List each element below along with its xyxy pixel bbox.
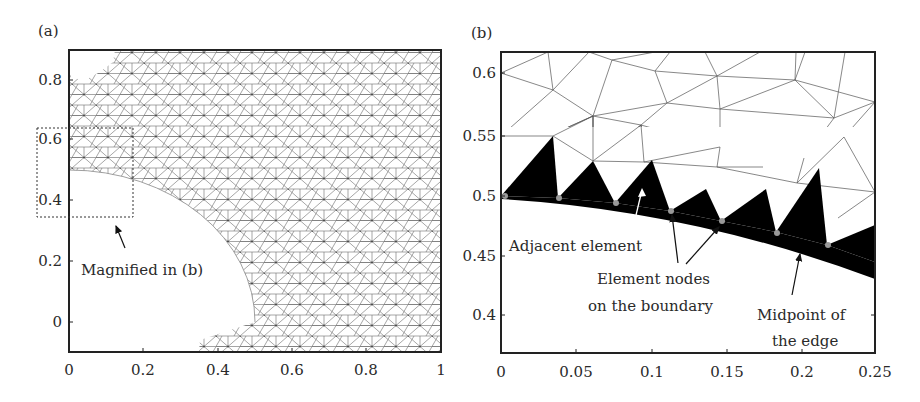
panel-b-xticklabels: 0 0.05 0.1 0.15 0.2 0.25 bbox=[496, 363, 891, 381]
svg-text:0.8: 0.8 bbox=[38, 71, 62, 89]
svg-text:0: 0 bbox=[52, 313, 62, 331]
svg-text:0.25: 0.25 bbox=[858, 363, 891, 381]
panel-b: (b) bbox=[463, 24, 892, 381]
element-nodes-label-1: Element nodes bbox=[597, 270, 710, 288]
adjacent-element-label: Adjacent element bbox=[508, 237, 642, 255]
svg-text:0.15: 0.15 bbox=[710, 363, 743, 381]
svg-text:0.2: 0.2 bbox=[790, 363, 814, 381]
panel-a-xticklabels: 0 0.2 0.4 0.6 0.8 1 bbox=[64, 361, 446, 379]
svg-text:0.6: 0.6 bbox=[38, 130, 62, 148]
midpoint-label-2: the edge bbox=[772, 332, 838, 350]
svg-text:0.4: 0.4 bbox=[38, 191, 62, 209]
panel-a: (a) 0 0.2 0.4 0.6 0.8 1 0 0.2 bbox=[37, 22, 446, 379]
panel-b-label: (b) bbox=[471, 24, 492, 42]
svg-text:0.4: 0.4 bbox=[206, 361, 230, 379]
svg-text:0: 0 bbox=[64, 361, 74, 379]
svg-text:0.8: 0.8 bbox=[354, 361, 378, 379]
panel-a-yticklabels: 0 0.2 0.4 0.6 0.8 bbox=[38, 71, 62, 331]
panel-b-yticklabels: 0.4 0.45 0.5 0.55 0.6 bbox=[463, 64, 496, 324]
svg-text:0.5: 0.5 bbox=[472, 187, 496, 205]
svg-text:0.45: 0.45 bbox=[463, 247, 496, 265]
svg-text:0.05: 0.05 bbox=[559, 363, 592, 381]
svg-text:0.6: 0.6 bbox=[280, 361, 304, 379]
panel-a-mesh bbox=[69, 50, 441, 352]
svg-text:0.2: 0.2 bbox=[38, 252, 62, 270]
svg-text:0.6: 0.6 bbox=[472, 64, 496, 82]
svg-text:0.2: 0.2 bbox=[131, 361, 155, 379]
svg-text:0.4: 0.4 bbox=[472, 306, 496, 324]
magnified-annotation: Magnified in (b) bbox=[81, 261, 203, 279]
panel-a-label: (a) bbox=[38, 22, 59, 40]
svg-text:0.55: 0.55 bbox=[463, 127, 496, 145]
element-nodes-label-2: on the boundary bbox=[588, 297, 713, 315]
figure: (a) 0 0.2 0.4 0.6 0.8 1 0 0.2 bbox=[0, 0, 920, 402]
midpoint-label-1: Midpoint of bbox=[757, 306, 847, 324]
svg-text:0: 0 bbox=[496, 363, 506, 381]
svg-text:0.1: 0.1 bbox=[640, 363, 664, 381]
svg-text:1: 1 bbox=[436, 361, 446, 379]
